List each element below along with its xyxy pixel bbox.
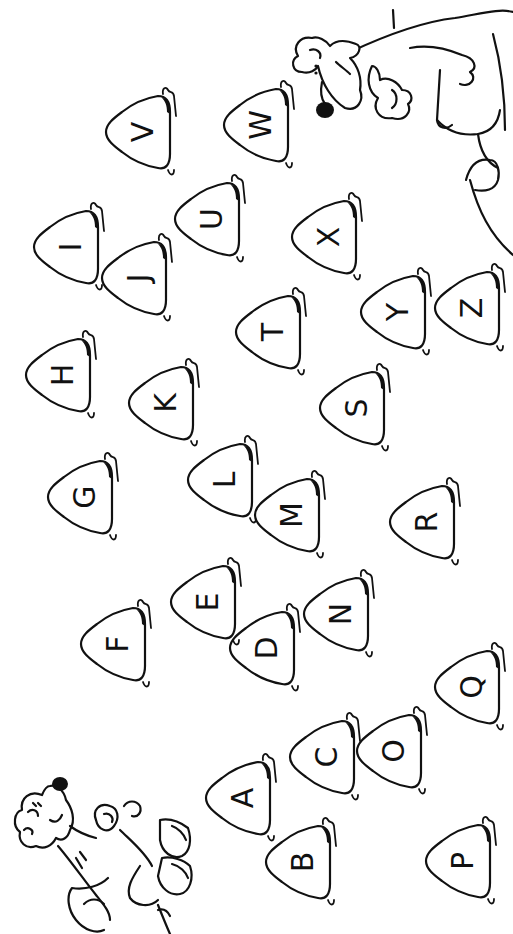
stone-letter: R — [409, 512, 444, 533]
stone-m: M — [255, 471, 325, 558]
stone-y: Y — [361, 268, 431, 355]
stone-g: G — [48, 453, 118, 540]
stone-letter: N — [323, 603, 358, 625]
stone-z: Z — [435, 264, 505, 351]
stone-r: R — [390, 478, 460, 565]
stone-v: V — [106, 88, 176, 175]
stone-letter: K — [148, 392, 183, 413]
stone-letter: J — [121, 274, 156, 285]
stone-letter: L — [207, 471, 242, 488]
stone-letter: T — [255, 322, 290, 342]
alphabet-stones: ABCDEFGHIJKLMNOPQRSTUVWXYZ — [26, 81, 505, 905]
stone-letter: M — [274, 502, 309, 528]
stone-letter: O — [376, 739, 411, 763]
stone-s: S — [320, 364, 390, 451]
stone-c: C — [290, 713, 360, 800]
stone-letter: S — [339, 398, 374, 417]
stone-w: W — [224, 81, 294, 168]
stone-a: A — [206, 754, 276, 841]
stone-q: Q — [435, 643, 505, 730]
stone-u: U — [175, 175, 245, 262]
stone-letter: V — [125, 121, 160, 142]
stone-letter: G — [67, 485, 102, 508]
stone-letter: H — [45, 364, 80, 387]
stone-o: O — [357, 707, 427, 794]
stone-i: I — [34, 203, 104, 290]
stone-letter: Q — [454, 675, 489, 699]
stone-letter: W — [243, 110, 278, 140]
bear-illustration — [15, 777, 192, 934]
coloring-scene: ABCDEFGHIJKLMNOPQRSTUVWXYZ — [0, 0, 513, 934]
stone-letter: B — [285, 852, 320, 873]
stone-l: L — [188, 436, 258, 523]
stone-letter: A — [225, 787, 260, 808]
stone-letter: U — [194, 208, 229, 230]
stone-d: D — [230, 604, 300, 691]
stone-b: B — [266, 818, 336, 905]
stone-e: E — [171, 558, 241, 645]
stone-letter: Z — [454, 298, 489, 319]
stone-n: N — [304, 570, 374, 657]
stone-h: H — [26, 331, 96, 418]
stone-t: T — [236, 288, 306, 375]
stone-letter: F — [100, 635, 135, 652]
stone-letter: E — [190, 593, 225, 612]
stone-f: F — [81, 600, 151, 687]
stone-letter: X — [311, 227, 346, 248]
stone-letter: C — [309, 747, 344, 768]
stone-j: J — [102, 234, 172, 321]
stone-k: K — [129, 359, 199, 446]
stone-letter: P — [445, 852, 480, 870]
stone-letter: I — [53, 243, 88, 252]
stone-x: X — [292, 193, 362, 280]
stone-p: P — [426, 817, 496, 904]
stone-letter: Y — [380, 302, 415, 322]
stone-letter: D — [249, 636, 284, 659]
